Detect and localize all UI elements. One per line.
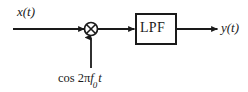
carrier-frequency-subscript: 0 [93, 80, 98, 90]
carrier-function-text: cos [58, 71, 75, 85]
carrier-time-var: t [98, 71, 101, 85]
carrier-signal-label: cos 2πf0t [58, 71, 102, 88]
output-signal-label: y(t) [221, 20, 239, 36]
input-signal-label: x(t) [17, 4, 35, 20]
diagram-canvas [0, 0, 248, 92]
lpf-block-label: LPF [140, 20, 165, 36]
block-diagram: x(t) LPF y(t) cos 2πf0t [0, 0, 248, 92]
